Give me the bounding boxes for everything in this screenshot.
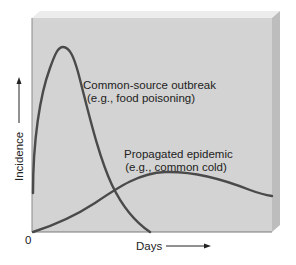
annotation-propagated-line2: (e.g., common cold): [124, 161, 228, 174]
y-axis-arrowhead-icon: [17, 77, 22, 84]
epidemic-curves-diagram: [0, 0, 296, 265]
annotation-common-source: Common-source outbreak (e.g., food poiso…: [83, 79, 199, 105]
panel-top-bevel: [32, 11, 280, 18]
x-axis-label: Days: [136, 240, 162, 253]
panel-side-bevel: [272, 11, 280, 232]
annotation-common-source-line1: Common-source outbreak: [83, 79, 199, 92]
x-axis-arrowhead-icon: [204, 244, 211, 249]
x-origin-label: 0: [25, 234, 31, 247]
annotation-common-source-line2: (e.g., food poisoning): [83, 92, 199, 105]
annotation-propagated-line1: Propagated epidemic: [124, 148, 228, 161]
y-axis-label: Incidence: [13, 132, 25, 181]
annotation-propagated: Propagated epidemic (e.g., common cold): [124, 148, 228, 174]
